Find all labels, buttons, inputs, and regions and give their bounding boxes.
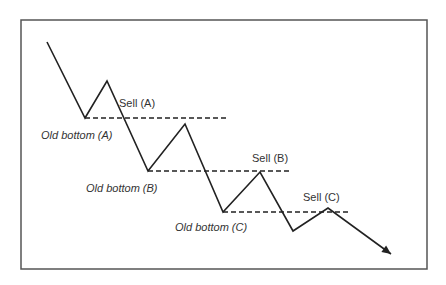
- chart-canvas: [0, 0, 446, 285]
- label-old-bottom-b: Old bottom (B): [86, 182, 158, 194]
- label-old-bottom-a: Old bottom (A): [41, 129, 113, 141]
- label-sell-b: Sell (B): [252, 152, 288, 164]
- label-old-bottom-c: Old bottom (C): [175, 221, 247, 233]
- arrow-head-icon: [381, 245, 391, 254]
- label-sell-c: Sell (C): [303, 191, 340, 203]
- label-sell-a: Sell (A): [119, 97, 155, 109]
